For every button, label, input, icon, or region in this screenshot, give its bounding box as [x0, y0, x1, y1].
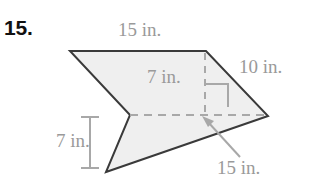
dimension-label-right: 10 in. [239, 56, 282, 78]
dimension-label-top: 15 in. [118, 19, 161, 41]
geometry-figure: 15. 15 in. 10 in. 7 in. 7 in. 15 in. [0, 0, 318, 193]
dimension-label-bottom: 15 in. [217, 157, 260, 179]
dimension-label-left-height: 7 in. [56, 130, 90, 152]
problem-number: 15. [4, 16, 33, 40]
dimension-label-inner-height: 7 in. [147, 66, 181, 88]
